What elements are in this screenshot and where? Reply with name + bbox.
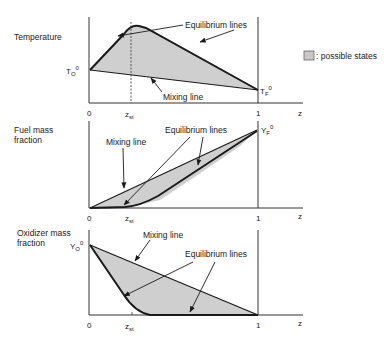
y-label-fuel-2: fraction xyxy=(14,135,42,145)
tick-1: 1 xyxy=(256,109,261,118)
y-label-fuel-1: Fuel mass xyxy=(14,125,53,135)
legend: : possible states xyxy=(304,51,377,61)
yf0-label: YF0 xyxy=(261,124,274,136)
mixing-arrow xyxy=(151,78,162,92)
tick-zst: zst xyxy=(125,214,134,224)
mixing-label: Mixing line xyxy=(143,230,183,240)
y-label-temperature: Temperature xyxy=(14,32,62,42)
equilibrium-label: Equilibrium lines xyxy=(185,20,247,30)
x-axis-label: z xyxy=(298,109,302,118)
tick-0: 0 xyxy=(87,321,92,330)
mixing-arrow xyxy=(123,148,124,188)
tick-1: 1 xyxy=(256,214,261,223)
mixing-label: Mixing line xyxy=(106,137,146,147)
y-label-oxidizer-1: Oxidizer mass xyxy=(17,228,71,238)
temperature-panel: Temperature Equilibrium lines Mixing lin… xyxy=(14,17,303,120)
equilibrium-arrow-2 xyxy=(200,30,234,42)
tick-1: 1 xyxy=(256,321,261,330)
x-axis-label: z xyxy=(298,212,302,221)
tick-zst: zst xyxy=(125,322,134,332)
tick-zst: zst xyxy=(125,110,134,120)
y-label-oxidizer-2: fraction xyxy=(17,238,45,248)
fuel-panel: Fuel mass fraction Equilibrium lines Mix… xyxy=(14,121,303,224)
equilibrium-label: Equilibrium lines xyxy=(185,249,247,259)
mixing-label: Mixing line xyxy=(163,92,203,102)
to0-label: TO0 xyxy=(66,65,80,77)
legend-label: : possible states xyxy=(316,51,377,61)
equilibrium-label: Equilibrium lines xyxy=(165,125,227,135)
tick-0: 0 xyxy=(87,109,92,118)
tf0-label: TF0 xyxy=(260,85,273,97)
oxidizer-panel: Oxidizer mass fraction Mixing line Equil… xyxy=(17,228,303,332)
mixing-arrow xyxy=(135,240,150,261)
yo0-label: YO0 xyxy=(70,240,84,252)
flamelet-state-diagram: Temperature Equilibrium lines Mixing lin… xyxy=(0,0,387,345)
tick-0: 0 xyxy=(87,214,92,223)
x-axis-label: z xyxy=(298,319,302,328)
legend-swatch xyxy=(304,51,314,60)
